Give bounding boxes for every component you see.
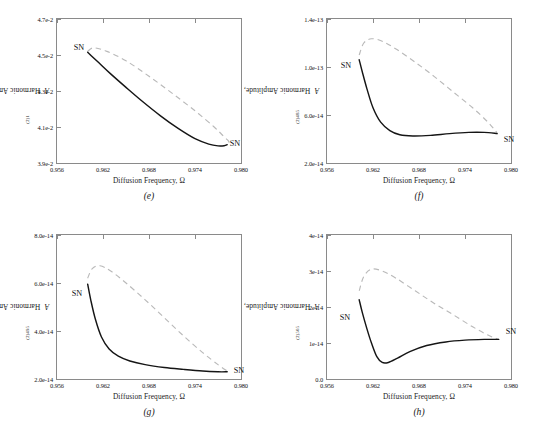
- panel-f-caption: (f): [326, 190, 512, 201]
- panel-f-dashed-branch: [359, 39, 497, 133]
- panel-g-ytick-1: 6.0e-14: [34, 279, 57, 286]
- panel-e-sn-label-right: SN: [230, 139, 240, 148]
- panel-e-caption: (e): [56, 190, 242, 201]
- panel-e-xtick-4: 0.980: [234, 163, 248, 173]
- panel-f-ytick-0: 1.4e-13: [304, 16, 327, 23]
- panel-h-x-axis-label: Diffusion Frequency, Ω: [326, 392, 512, 401]
- panel-g-xtick-1: 0.962: [96, 379, 110, 389]
- panel-e-xtick-1: 0.962: [96, 163, 110, 173]
- panel-g: Harmonic Amplitude, A(2)495 8.0e-14 6.0e…: [0, 216, 270, 433]
- panel-e-xtick-3: 0.974: [188, 163, 202, 173]
- panel-e-ytick-2: 4.3e-2: [37, 88, 57, 95]
- panel-h-xtick-0: 0.956: [320, 379, 334, 389]
- panel-g-solid-branch: [88, 284, 228, 372]
- panel-f-xtick-4: 0.980: [504, 163, 518, 173]
- panel-h-xtick-2: 0.968: [412, 379, 426, 389]
- panel-f-x-axis-label: Diffusion Frequency, Ω: [326, 176, 512, 185]
- panel-e-sn-label-left: SN: [74, 43, 84, 52]
- panel-f-xtick-3: 0.974: [458, 163, 472, 173]
- panel-f-ytick-2: 6.0e-14: [304, 112, 327, 119]
- panel-h-ytick-1: 3e-14: [309, 268, 327, 275]
- panel-e-y-axis-label: Harmonic Amplitude, A(2)1: [9, 18, 23, 164]
- panel-g-xtick-3: 0.974: [188, 379, 202, 389]
- panel-h-ytick-0: 4e-14: [309, 232, 327, 239]
- panel-f-sn-label-right: SN: [504, 135, 514, 144]
- panel-e-ytick-1: 4.5e-2: [37, 52, 57, 59]
- panel-e-solid-branch: [88, 52, 228, 146]
- panel-h-xtick-1: 0.962: [366, 379, 380, 389]
- panel-f: Harmonic Amplitude, A(2)485 1.4e-13 1.0e…: [270, 0, 540, 217]
- panel-g-xtick-0: 0.956: [50, 379, 64, 389]
- panel-f-xtick-0: 0.956: [320, 163, 334, 173]
- panel-h-curves: [327, 235, 511, 379]
- panel-h-plot-area: 4e-14 3e-14 2e-14 1e-14 0.0 0.956 0.962 …: [326, 234, 512, 380]
- panel-h-caption: (h): [326, 406, 512, 417]
- panel-h-xtick-3: 0.974: [458, 379, 472, 389]
- panel-e-ytick-3: 4.1e-2: [37, 124, 57, 131]
- panel-g-caption: (g): [56, 406, 242, 417]
- panel-f-plot-area: 1.4e-13 1.0e-13 6.0e-14 2.0e-14 0.956 0.…: [326, 18, 512, 164]
- panel-h-sn-label-left: SN: [340, 313, 350, 322]
- panel-h-ytick-2: 2e-14: [309, 304, 327, 311]
- panel-h-sn-label-right: SN: [506, 327, 516, 336]
- panel-h-dashed-branch: [359, 269, 499, 340]
- panel-f-xtick-2: 0.968: [412, 163, 426, 173]
- panel-g-xtick-4: 0.980: [234, 379, 248, 389]
- panel-e-xtick-0: 0.956: [50, 163, 64, 173]
- panel-g-dashed-branch: [88, 266, 228, 371]
- panel-g-sn-label-left: SN: [72, 289, 82, 298]
- panel-g-ytick-0: 8.0e-14: [34, 232, 57, 239]
- panel-e-dashed-branch: [88, 48, 229, 145]
- panel-f-xtick-1: 0.962: [366, 163, 380, 173]
- panel-e-x-axis-label: Diffusion Frequency, Ω: [56, 176, 242, 185]
- panel-g-y-axis-label: Harmonic Amplitude, A(2)495: [9, 234, 23, 380]
- panel-f-ytick-1: 1.0e-13: [304, 63, 327, 70]
- panel-f-curves: [327, 19, 511, 163]
- panel-g-sn-label-right: SN: [234, 366, 244, 375]
- panel-g-curves: [57, 235, 241, 379]
- panel-g-plot-area: 8.0e-14 6.0e-14 4.0e-14 2.0e-14 0.956 0.…: [56, 234, 242, 380]
- panel-e-curves: [57, 19, 241, 163]
- panel-g-ytick-2: 4.0e-14: [34, 328, 57, 335]
- panel-h-xtick-4: 0.980: [504, 379, 518, 389]
- panel-f-y-axis-label: Harmonic Amplitude, A(2)485: [279, 18, 293, 164]
- panel-h-ytick-3: 1e-14: [309, 340, 327, 347]
- panel-h-y-axis-label: Harmonic Amplitude, A(2)505: [279, 234, 293, 380]
- panel-e-xtick-2: 0.968: [142, 163, 156, 173]
- panel-h: Harmonic Amplitude, A(2)505 4e-14 3e-14 …: [270, 216, 540, 433]
- panel-g-x-axis-label: Diffusion Frequency, Ω: [56, 392, 242, 401]
- panel-g-xtick-2: 0.968: [142, 379, 156, 389]
- figure-bifurcation-panels: Harmonic Amplitude, A(2)1 4.7e-2 4.5e-2 …: [0, 0, 541, 435]
- panel-h-solid-branch: [359, 300, 499, 363]
- panel-e: Harmonic Amplitude, A(2)1 4.7e-2 4.5e-2 …: [0, 0, 270, 217]
- panel-e-ytick-0: 4.7e-2: [37, 16, 57, 23]
- panel-e-plot-area: 4.7e-2 4.5e-2 4.3e-2 4.1e-2 3.9e-2 0.956…: [56, 18, 242, 164]
- panel-f-sn-label-left: SN: [341, 61, 351, 70]
